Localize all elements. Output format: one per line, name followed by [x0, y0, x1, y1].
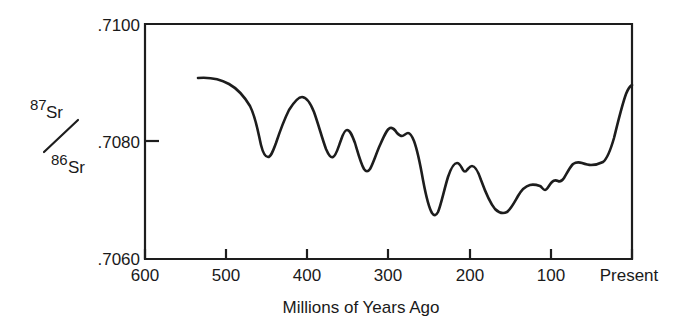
y-label-numerator-base: Sr: [46, 103, 63, 122]
x-tick-label-300: 300: [374, 266, 402, 285]
x-tick-label-100: 100: [537, 266, 565, 285]
y-tick-label-7100: .7100: [97, 16, 140, 35]
x-tick-label-400: 400: [293, 266, 321, 285]
x-tick-label-present: Present: [600, 266, 659, 285]
x-axis-title: Millions of Years Ago: [283, 298, 440, 317]
plot-frame: [145, 24, 632, 259]
strontium-isotope-chart: .7100 .7080 .7060 600 500 400 300 200 10…: [0, 0, 682, 336]
y-tick-label-7080: .7080: [97, 133, 140, 152]
y-label-denominator-base: Sr: [68, 158, 85, 177]
y-label-numerator-sup: 87: [30, 96, 47, 113]
y-label-denominator-sup: 86: [51, 151, 68, 168]
chart-svg: .7100 .7080 .7060 600 500 400 300 200 10…: [0, 0, 682, 336]
x-tick-label-500: 500: [212, 266, 240, 285]
x-tick-label-600: 600: [131, 266, 159, 285]
strontium-curve: [198, 78, 632, 215]
fraction-slash-icon: [44, 120, 78, 152]
x-tick-label-200: 200: [456, 266, 484, 285]
y-axis-label: 87 Sr 86 Sr: [30, 96, 85, 177]
x-tick-marks: [145, 249, 632, 259]
